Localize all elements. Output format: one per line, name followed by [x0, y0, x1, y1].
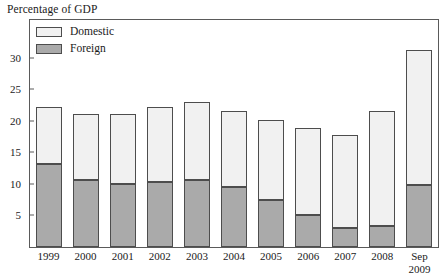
y-tick-label: 5 — [16, 210, 22, 221]
bar-segment-foreign — [221, 187, 247, 247]
x-tick-label-line: 2007 — [334, 250, 356, 262]
bar-segment-foreign — [258, 200, 284, 247]
bar-segment-foreign — [36, 164, 62, 247]
x-tick-label-line: 2009 — [401, 263, 438, 276]
legend-item: Domestic — [36, 24, 166, 39]
bar-group — [369, 111, 395, 247]
y-tick-mark — [29, 120, 34, 121]
bar-group — [258, 120, 284, 247]
bar-segment-foreign — [110, 184, 136, 247]
bar-group — [110, 114, 136, 247]
x-tick-label: 2000 — [67, 250, 104, 263]
bar-segment-domestic — [406, 50, 432, 185]
chart-legend: DomesticForeign — [36, 24, 166, 58]
bar-segment-foreign — [73, 180, 99, 247]
bar-segment-domestic — [258, 120, 284, 200]
legend-swatch-domestic — [36, 27, 62, 37]
bar-group — [295, 128, 321, 247]
x-tick-label-line: 2001 — [112, 250, 134, 262]
bar-segment-domestic — [332, 135, 358, 228]
y-axis: 51015202530 — [0, 0, 29, 278]
bar-group — [184, 102, 210, 247]
legend-label: Domestic — [70, 25, 114, 38]
bar-segment-domestic — [110, 114, 136, 184]
x-tick-label-line: 2002 — [149, 250, 171, 262]
y-tick-mark — [29, 215, 34, 216]
x-tick-label: 2001 — [104, 250, 141, 263]
bar-segment-foreign — [147, 182, 173, 247]
x-tick-label: 1999 — [30, 250, 67, 263]
bar-segment-domestic — [184, 102, 210, 180]
x-tick-label-line: 2006 — [297, 250, 319, 262]
x-tick-label-line: 2005 — [260, 250, 282, 262]
bar-segment-foreign — [295, 215, 321, 247]
chart-figure: Percentage of GDP 51015202530 1999200020… — [0, 0, 445, 278]
x-tick-label-line: 1999 — [38, 250, 60, 262]
legend-swatch-foreign — [36, 44, 62, 54]
x-tick-label: 2003 — [178, 250, 215, 263]
bar-segment-domestic — [36, 107, 62, 164]
x-tick-label: Sep2009 — [401, 250, 438, 275]
bar-segment-domestic — [73, 114, 99, 180]
bar-group — [147, 107, 173, 247]
bar-group — [406, 50, 432, 247]
y-tick-label: 25 — [10, 84, 21, 95]
legend-label: Foreign — [70, 42, 106, 55]
bar-segment-domestic — [221, 111, 247, 187]
x-tick-label-line: 2000 — [75, 250, 97, 262]
y-tick-mark — [29, 57, 34, 58]
bar-segment-foreign — [369, 226, 395, 247]
y-tick-label: 10 — [10, 178, 21, 189]
y-tick-label: 15 — [10, 147, 21, 158]
y-tick-label: 20 — [10, 115, 21, 126]
x-tick-label: 2004 — [215, 250, 252, 263]
x-tick-label: 2002 — [141, 250, 178, 263]
y-tick-label: 30 — [10, 52, 21, 63]
x-tick-label: 2007 — [327, 250, 364, 263]
x-axis: 1999200020012002200320042005200620072008… — [30, 249, 438, 278]
x-tick-label: 2005 — [253, 250, 290, 263]
bar-segment-domestic — [369, 111, 395, 226]
bar-group — [332, 135, 358, 247]
bar-segment-foreign — [184, 180, 210, 247]
bar-group — [221, 111, 247, 247]
y-tick-mark — [29, 152, 34, 153]
bar-segment-domestic — [147, 107, 173, 182]
bar-group — [73, 114, 99, 247]
x-tick-label-line: 2004 — [223, 250, 245, 262]
bar-segment-domestic — [295, 128, 321, 215]
x-tick-label-line: 2008 — [371, 250, 393, 262]
bar-segment-foreign — [406, 185, 432, 247]
x-tick-label: 2006 — [290, 250, 327, 263]
bar-group — [36, 107, 62, 247]
x-tick-label-line: 2003 — [186, 250, 208, 262]
x-tick-label-line: Sep — [411, 250, 428, 262]
legend-item: Foreign — [36, 41, 166, 56]
y-tick-mark — [29, 183, 34, 184]
y-tick-mark — [29, 89, 34, 90]
bar-segment-foreign — [332, 228, 358, 247]
x-tick-label: 2008 — [364, 250, 401, 263]
